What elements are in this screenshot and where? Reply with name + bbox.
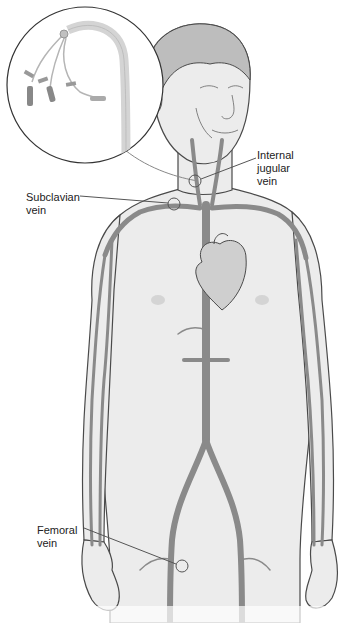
femoral-vein-label: Femoral vein [37, 524, 77, 550]
bottom-fade [0, 606, 358, 623]
internal-jugular-vein-label: Internal jugular vein [257, 149, 294, 188]
catheter-hub [60, 30, 68, 38]
venous-access-illustration: Internal jugular vein Subclavian vein Fe… [0, 0, 358, 623]
right-nipple [255, 295, 269, 305]
left-nipple [151, 295, 165, 305]
subclavian-vein-label: Subclavian vein [26, 191, 80, 217]
catheter-inset [7, 7, 163, 170]
connector-1 [27, 86, 33, 106]
right-hand [306, 540, 338, 608]
connector-3 [90, 96, 106, 101]
